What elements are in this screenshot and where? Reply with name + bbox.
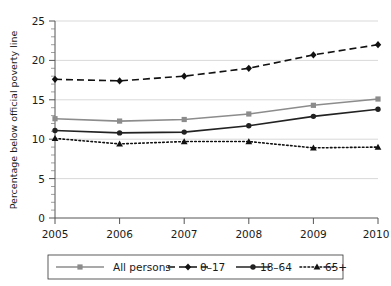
y-tick-labels: 25 20 15 10 5 0: [32, 15, 45, 224]
x-tick-labels: 2005 2006 2007 2008 2009 2010: [42, 228, 390, 240]
x-tick-label-2008: 2008: [235, 228, 262, 240]
x-tick-label-2009: 2009: [300, 228, 327, 240]
y-tick-label-25: 25: [32, 15, 45, 27]
y-tick-label-0: 0: [38, 212, 45, 224]
data-point-marker: [311, 114, 316, 119]
legend-label: 65+: [325, 261, 347, 273]
x-axis-ticks: [55, 218, 378, 224]
y-tick-label-15: 15: [32, 94, 45, 106]
data-point-marker: [250, 264, 255, 269]
plot-area-background: [55, 21, 378, 218]
data-point-marker: [117, 118, 122, 123]
y-tick-label-20: 20: [32, 54, 45, 66]
y-axis-title: Percentage below official poverty line: [8, 31, 19, 210]
data-point-marker: [77, 264, 82, 269]
x-tick-label-2005: 2005: [42, 228, 69, 240]
poverty-rate-line-chart: 25 20 15 10 5 0 2005 2006 2007 2008 2009…: [0, 0, 391, 286]
data-point-marker: [117, 130, 122, 135]
legend-label: All persons: [113, 261, 171, 273]
data-point-marker: [311, 103, 316, 108]
data-point-marker: [52, 116, 57, 121]
legend-label: 18–64: [260, 261, 292, 273]
data-point-marker: [375, 107, 380, 112]
legend-label: 0–17: [200, 261, 225, 273]
x-tick-label-2007: 2007: [171, 228, 198, 240]
x-tick-label-2006: 2006: [106, 228, 133, 240]
data-point-marker: [182, 117, 187, 122]
data-point-marker: [246, 111, 251, 116]
y-tick-label-10: 10: [32, 133, 45, 145]
data-point-marker: [182, 129, 187, 134]
data-point-marker: [375, 96, 380, 101]
y-tick-label-5: 5: [38, 173, 45, 185]
x-tick-label-2010: 2010: [363, 228, 390, 240]
data-point-marker: [52, 128, 57, 133]
data-point-marker: [246, 123, 251, 128]
chart-canvas: 25 20 15 10 5 0 2005 2006 2007 2008 2009…: [0, 0, 391, 286]
